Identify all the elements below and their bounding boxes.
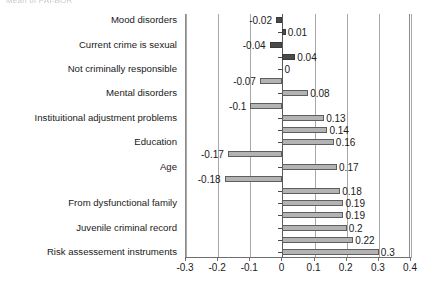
- axis-tick: [249, 257, 250, 261]
- category-label: Juvenile criminal record: [76, 223, 177, 233]
- caption-fragment: Mean of PAI-BOR: [6, 0, 72, 5]
- bar-value-label: 0.19: [346, 198, 365, 209]
- bar-value-label: 0.22: [355, 234, 374, 245]
- bar-value-label: -0.17: [201, 149, 224, 160]
- bar: [225, 176, 283, 182]
- bar-value-label: -0.18: [198, 173, 221, 184]
- bar-value-label: -0.07: [233, 76, 256, 87]
- category-label: Risk assessement instruments: [47, 247, 177, 257]
- gridline: [379, 14, 380, 258]
- bar: [282, 29, 285, 35]
- bar: [276, 17, 282, 23]
- bar-value-label: 0.3: [381, 246, 395, 257]
- bar: [282, 237, 353, 243]
- bar-value-label: 0.04: [297, 51, 316, 62]
- axis-tick-label: -0.3: [176, 262, 193, 273]
- bar-value-label: 0.01: [288, 27, 307, 38]
- bar-value-label: 0.19: [346, 210, 365, 221]
- bar-value-label: 0.13: [326, 112, 345, 123]
- category-label: Instituitional adjustment problems: [35, 113, 177, 123]
- axis-tick-label: -0.2: [209, 262, 226, 273]
- axis-tick-label: 0.3: [371, 262, 385, 273]
- bar: [282, 200, 343, 206]
- bar-value-label: 0.17: [339, 161, 358, 172]
- bar-value-label: 0.08: [310, 88, 329, 99]
- axis-tick: [346, 257, 347, 261]
- bar: [282, 139, 333, 145]
- category-label: From dysfunctional family: [68, 198, 177, 208]
- bar: [270, 42, 283, 48]
- x-axis-line: [185, 257, 410, 258]
- bar: [282, 90, 308, 96]
- category-label: Mood disorders: [111, 15, 177, 25]
- bar: [282, 54, 295, 60]
- bar: [282, 115, 324, 121]
- bar: [250, 103, 282, 109]
- bar: [282, 212, 343, 218]
- bar: [282, 127, 327, 133]
- gridline: [250, 14, 251, 258]
- category-label: Not criminally responsible: [68, 64, 177, 74]
- bar-value-label: 0.18: [342, 185, 361, 196]
- axis-tick: [185, 257, 186, 261]
- axis-tick: [410, 257, 411, 261]
- category-label: Age: [160, 162, 177, 172]
- bar: [282, 164, 337, 170]
- zero-axis-line: [282, 14, 283, 258]
- row-tick: [278, 69, 282, 70]
- axis-tick: [314, 257, 315, 261]
- bar-value-label: 0: [284, 63, 290, 74]
- bar-value-label: 0.2: [349, 222, 363, 233]
- axis-tick-label: 0.4: [403, 262, 417, 273]
- axis-tick: [217, 257, 218, 261]
- gridline: [218, 14, 219, 258]
- axis-tick-label: 0: [279, 262, 285, 273]
- bar: [260, 78, 283, 84]
- axis-tick-label: 0.1: [307, 262, 321, 273]
- category-label: Mental disorders: [106, 88, 177, 98]
- bar-value-label: -0.1: [229, 100, 246, 111]
- axis-tick: [281, 257, 282, 261]
- axis-tick-label: -0.1: [241, 262, 258, 273]
- axis-tick-label: 0.2: [339, 262, 353, 273]
- gridline: [186, 14, 187, 258]
- bar: [282, 249, 378, 255]
- bar-value-label: 0.14: [329, 124, 348, 135]
- category-label: Education: [134, 137, 177, 147]
- bar-value-label: -0.02: [249, 15, 272, 26]
- bar: [282, 188, 340, 194]
- gridline: [411, 14, 412, 258]
- category-label-column: Mood disordersCurrent crime is sexualNot…: [0, 14, 181, 258]
- bar: [228, 151, 283, 157]
- bar-value-label: -0.04: [243, 39, 266, 50]
- category-label: Current crime is sexual: [79, 40, 177, 50]
- bar-value-label: 0.16: [336, 137, 355, 148]
- bar: [282, 225, 346, 231]
- chart-figure: Mean of PAI-BOR Mood disordersCurrent cr…: [0, 0, 422, 286]
- axis-tick: [378, 257, 379, 261]
